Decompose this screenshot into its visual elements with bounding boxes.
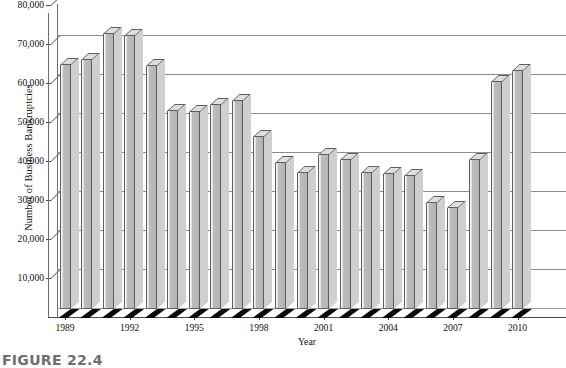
bar-side-face (351, 152, 359, 309)
bar-front-face (210, 105, 221, 309)
bar-front-face (60, 65, 71, 309)
bar-side-face (178, 104, 186, 309)
x-axis-title-text: Year (250, 336, 316, 347)
bar (146, 66, 157, 309)
bar-front-face (340, 160, 351, 309)
bar (340, 160, 351, 309)
bar-side-face (329, 148, 337, 309)
bar-side-face (415, 168, 423, 309)
x-axis-tick-label: 2004 (368, 322, 408, 333)
bar-front-face (189, 112, 200, 309)
bar (103, 34, 114, 309)
bar-side-face (71, 58, 79, 309)
bar (383, 174, 394, 309)
x-axis-tick-label: 2007 (433, 322, 473, 333)
bar-front-face (232, 101, 243, 309)
y-axis-tick-label: 20,000 (0, 233, 44, 244)
bar-front-face (167, 111, 178, 309)
bar-side-face (200, 105, 208, 309)
bar-side-face (308, 165, 316, 309)
y-axis-tick-label: 70,000 (0, 38, 44, 49)
bar-side-face (135, 29, 143, 309)
bar (447, 208, 458, 309)
y-axis-line (57, 4, 58, 318)
bar-front-face (512, 71, 523, 309)
y-axis-tick-label: 40,000 (0, 155, 44, 166)
bar-side-face (372, 165, 380, 309)
bar (469, 160, 480, 309)
bar (124, 36, 135, 309)
bar-side-face (480, 152, 488, 309)
bar (232, 101, 243, 309)
x-axis-tick-label: 1995 (174, 322, 214, 333)
x-axis-tick-label: 2001 (304, 322, 344, 333)
bar-front-face (447, 208, 458, 309)
bar-front-face (491, 82, 502, 309)
bar-front-face (297, 173, 308, 310)
x-axis-tick-label: 1992 (110, 322, 150, 333)
bar-side-face (437, 195, 445, 309)
bar-front-face (146, 66, 157, 309)
bar-side-face (523, 64, 531, 309)
bar (210, 105, 221, 309)
bar-side-face (264, 130, 272, 309)
bar-side-face (458, 200, 466, 309)
bar (167, 111, 178, 309)
bar (426, 203, 437, 309)
bar-side-face (92, 53, 100, 309)
bar (189, 112, 200, 309)
bar-side-face (286, 156, 294, 309)
bar (297, 173, 308, 310)
bar-front-face (361, 173, 372, 310)
x-axis-tick-label: 1989 (45, 322, 85, 333)
bar-side-face (394, 166, 402, 309)
bar-front-face (404, 176, 415, 309)
bar-front-face (253, 137, 264, 309)
bar-front-face (426, 203, 437, 309)
bar-front-face (275, 163, 286, 309)
y-axis-tick-label: 50,000 (0, 116, 44, 127)
bar-front-face (124, 36, 135, 309)
bar (361, 173, 372, 310)
bar (404, 176, 415, 309)
bar-front-face (383, 174, 394, 309)
x-axis-title: Year (0, 336, 566, 347)
x-axis-tick-label: 1998 (239, 322, 279, 333)
y-axis-tick-label: 10,000 (0, 272, 44, 283)
bar (512, 71, 523, 309)
bar (60, 65, 71, 309)
bar (81, 60, 92, 309)
figure-caption: FIGURE 22.4 (2, 352, 103, 368)
bar-side-face (221, 98, 229, 309)
y-axis-tick-label: 30,000 (0, 194, 44, 205)
bar-front-face (81, 60, 92, 309)
bar-side-face (502, 74, 510, 309)
bar (253, 137, 264, 309)
bar-front-face (318, 155, 329, 309)
y-axis-tick-label: 80,000 (0, 0, 44, 10)
x-axis-tick-label: 2010 (498, 322, 538, 333)
plot-area (57, 4, 566, 318)
bar-front-face (469, 160, 480, 309)
y-axis-tick-label: 60,000 (0, 77, 44, 88)
bar (275, 163, 286, 309)
bar-front-face (103, 34, 114, 309)
bar-side-face (114, 26, 122, 309)
back-wall-edge (48, 13, 49, 318)
bar-side-face (243, 94, 251, 309)
bar (491, 82, 502, 309)
figure-container: Number of Business Bankruptcies 80,00070… (0, 0, 566, 368)
bar (318, 155, 329, 309)
bar-side-face (157, 58, 165, 309)
